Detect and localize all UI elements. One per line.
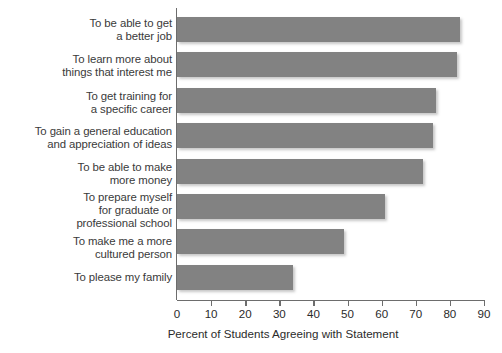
x-axis-tick-label: 80	[435, 307, 465, 320]
x-axis-tick	[416, 300, 417, 306]
bar	[177, 229, 344, 254]
x-axis-tick-label: 40	[298, 307, 328, 320]
category-label: To get training for a specific career	[0, 90, 172, 116]
x-axis-tick-label: 20	[230, 307, 260, 320]
bar	[177, 88, 436, 113]
x-axis-tick-label: 50	[333, 307, 363, 320]
x-axis-line	[177, 300, 484, 301]
bar	[177, 265, 293, 290]
x-axis-tick	[484, 300, 485, 306]
x-axis-tick-label: 90	[469, 307, 499, 320]
category-label: To be able to get a better job	[0, 17, 172, 43]
x-axis-tick-label: 30	[264, 307, 294, 320]
x-axis-tick	[450, 300, 451, 306]
x-axis-tick	[382, 300, 383, 306]
x-axis-tick	[348, 300, 349, 306]
bar	[177, 17, 460, 42]
bar	[177, 194, 385, 219]
x-axis-tick-label: 60	[367, 307, 397, 320]
bar	[177, 123, 433, 148]
category-label: To learn more about things that interest…	[0, 53, 172, 79]
bar-chart: To be able to get a better job To learn …	[0, 0, 502, 353]
category-label: To be able to make more money	[0, 161, 172, 187]
x-axis-tick	[279, 300, 280, 306]
category-label: To please my family	[0, 271, 172, 284]
x-axis-tick-label: 70	[401, 307, 431, 320]
x-axis-tick	[211, 300, 212, 306]
x-axis-tick	[245, 300, 246, 306]
category-label: To prepare myself for graduate or profes…	[0, 191, 172, 231]
x-axis-tick-label: 10	[196, 307, 226, 320]
bar	[177, 52, 457, 77]
plot-area	[177, 8, 484, 300]
x-axis-tick	[313, 300, 314, 306]
x-axis-tick-label: 0	[162, 307, 192, 320]
bar	[177, 159, 423, 184]
x-axis-title: Percent of Students Agreeing with Statem…	[0, 327, 502, 340]
category-label: To gain a general education and apprecia…	[0, 125, 172, 151]
category-label: To make me a more cultured person	[0, 235, 172, 261]
category-labels: To be able to get a better job To learn …	[0, 0, 172, 300]
